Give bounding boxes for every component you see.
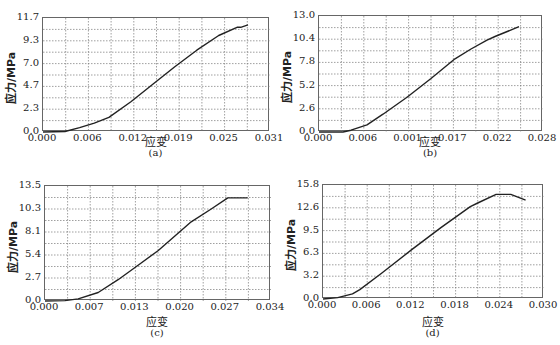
- stress-strain-curve: [323, 194, 526, 299]
- x-tick-label: 0.007: [69, 302, 109, 312]
- y-axis-label: 应力/MPa: [282, 219, 298, 271]
- x-tick-label: 0.034: [250, 302, 290, 312]
- x-tick-label: 0.027: [205, 302, 245, 312]
- y-tick-label: 2.7: [7, 272, 41, 282]
- figure-caption: (b): [400, 147, 460, 158]
- y-tick-label: 3.2: [285, 270, 319, 280]
- y-tick-label: 2.3: [5, 103, 39, 113]
- y-axis-label: 应力/MPa: [278, 51, 294, 103]
- x-tick-label: 0.030: [523, 300, 560, 310]
- plot-area: [44, 185, 270, 300]
- plot-area: [42, 17, 269, 131]
- x-tick-label: 0.006: [67, 133, 107, 143]
- y-axis-label: 应力/MPa: [2, 52, 18, 104]
- y-tick-label: 13.5: [7, 180, 41, 190]
- x-tick-label: 0.018: [435, 300, 475, 310]
- x-tick-label: 0.000: [302, 300, 342, 310]
- y-tick-label: 9.3: [5, 35, 39, 45]
- stress-strain-curve: [45, 198, 248, 301]
- x-tick-label: 0.000: [24, 302, 64, 312]
- y-tick-label: 2.6: [281, 103, 315, 113]
- x-tick-label: 0.006: [346, 300, 386, 310]
- x-tick-label: 0.024: [479, 300, 519, 310]
- x-tick-label: 0.025: [204, 133, 244, 143]
- y-tick-label: 10.3: [7, 203, 41, 213]
- figure-caption: (c): [127, 327, 187, 338]
- plot-area: [318, 15, 542, 131]
- x-tick-label: 0.013: [114, 302, 154, 312]
- y-axis-label: 应力/MPa: [4, 220, 20, 272]
- y-tick-label: 13.0: [281, 10, 315, 20]
- x-tick-label: 0.006: [343, 133, 383, 143]
- plot-svg: [323, 185, 544, 299]
- x-tick-label: 0.020: [160, 302, 200, 312]
- y-tick-label: 12.6: [285, 202, 319, 212]
- plot-svg: [43, 18, 270, 132]
- x-tick-label: 0.000: [298, 133, 338, 143]
- y-tick-label: 10.4: [281, 33, 315, 43]
- plot-svg: [45, 186, 271, 301]
- x-tick-label: 0.028: [522, 133, 560, 143]
- plot-svg: [319, 16, 543, 132]
- x-tick-label: 0.012: [390, 300, 430, 310]
- plot-area: [322, 184, 543, 298]
- figure-caption: (d): [403, 327, 463, 338]
- figure-caption: (a): [126, 147, 186, 158]
- y-tick-label: 11.7: [5, 12, 39, 22]
- y-tick-label: 15.8: [285, 179, 319, 189]
- stress-strain-curve: [319, 27, 519, 132]
- x-tick-label: 0.022: [477, 133, 517, 143]
- x-tick-label: 0.000: [22, 133, 62, 143]
